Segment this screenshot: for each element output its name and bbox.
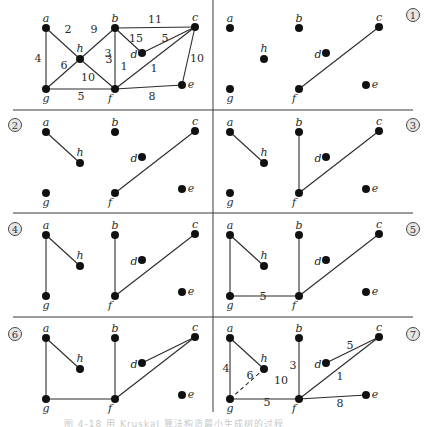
vertex-label-g: g [42, 92, 49, 105]
vertex-label-f: f [107, 196, 114, 209]
vertex-label-d: d [130, 48, 137, 61]
vertex-f [295, 395, 303, 403]
vertex-label-d: d [314, 152, 321, 165]
vertex-h [260, 365, 268, 373]
vertex-label-h: h [260, 249, 267, 262]
vertex-a [42, 334, 50, 342]
vertex-f [295, 189, 303, 197]
vertex-e [362, 391, 370, 399]
vertex-label-f: f [107, 92, 114, 105]
vertex-d [322, 153, 330, 161]
vertex-label-b: b [111, 12, 118, 25]
panel-step-7: 461035158abchdgfe [223, 321, 384, 415]
step-number: 4 [12, 224, 18, 235]
vertex-f [111, 189, 119, 197]
vertex-label-c: c [376, 218, 382, 231]
vertex-f [295, 292, 303, 300]
edge-fc [299, 234, 379, 296]
vertex-d [138, 359, 146, 367]
vertex-c [375, 127, 383, 135]
vertex-label-a: a [43, 322, 50, 335]
vertex-label-d: d [314, 48, 321, 61]
vertex-label-a: a [43, 12, 50, 25]
vertex-c [191, 23, 199, 31]
edge-ah [46, 132, 80, 163]
vertex-f [111, 85, 119, 93]
edge-ah [46, 28, 80, 59]
vertex-e [178, 81, 186, 89]
edge-weight: 1 [337, 370, 344, 383]
vertex-label-a: a [227, 12, 234, 25]
vertex-d [138, 256, 146, 264]
vertex-label-f: f [291, 92, 298, 105]
vertex-label-g: g [42, 402, 49, 415]
edge-weight: 8 [149, 90, 156, 103]
vertex-b [111, 128, 119, 136]
vertex-label-c: c [192, 321, 198, 334]
vertex-label-d: d [130, 255, 137, 268]
vertex-label-g: g [226, 402, 233, 415]
vertex-label-d: d [130, 358, 137, 371]
vertex-label-e: e [188, 388, 195, 401]
edge-dc [142, 337, 195, 363]
vertex-label-g: g [226, 299, 233, 312]
edge-weight: 3 [290, 359, 297, 372]
vertex-c [191, 127, 199, 135]
edge-weight: 10 [81, 71, 95, 84]
vertex-a [42, 231, 50, 239]
edge-ah [230, 338, 264, 369]
vertex-label-a: a [43, 219, 50, 232]
vertex-f [111, 292, 119, 300]
edge-weight: 10 [274, 374, 288, 387]
edge-weight: 8 [337, 397, 344, 410]
vertex-c [191, 230, 199, 238]
vertex-label-h: h [76, 249, 83, 262]
vertex-f [111, 395, 119, 403]
vertex-h [260, 159, 268, 167]
vertex-h [260, 262, 268, 270]
vertex-label-a: a [227, 219, 234, 232]
vertex-label-h: h [260, 352, 267, 365]
edge-weight: 5 [78, 90, 85, 103]
vertex-label-f: f [107, 299, 114, 312]
vertex-a [42, 128, 50, 136]
vertex-label-g: g [42, 196, 49, 209]
vertex-label-d: d [314, 358, 321, 371]
vertex-e [362, 185, 370, 193]
vertex-label-f: f [291, 196, 298, 209]
vertex-label-d: d [130, 152, 137, 165]
vertex-h [76, 365, 84, 373]
edge-weight: 5 [162, 32, 169, 45]
panel-step-6: abchdgfe [42, 321, 199, 415]
edge-weight: 10 [190, 52, 204, 65]
edge-weight: 11 [148, 13, 162, 26]
panel-graph: 24961011153511058abchdgfe [35, 11, 205, 105]
vertex-e [178, 185, 186, 193]
panel-step-3: abchdgfe [226, 115, 383, 209]
kruskal-figure: 24961011153511058abchdgfe1abchdgfe3abchd… [0, 0, 429, 427]
step-number: 1 [410, 10, 416, 21]
edge-ah [230, 132, 264, 163]
edge-ah [230, 235, 264, 266]
vertex-label-a: a [227, 116, 234, 129]
edge-weight: 9 [91, 23, 98, 36]
edge-fe [115, 85, 182, 89]
vertex-label-b: b [295, 12, 302, 25]
edge-weight: 3 [105, 47, 112, 60]
vertex-label-c: c [192, 218, 198, 231]
vertex-label-b: b [295, 322, 302, 335]
vertex-a [226, 24, 234, 32]
vertex-label-g: g [226, 92, 233, 105]
edge-fc [299, 131, 379, 193]
vertex-e [178, 391, 186, 399]
vertex-d [322, 256, 330, 264]
vertex-c [191, 333, 199, 341]
vertex-label-b: b [111, 219, 118, 232]
step-badges: 1234567 [9, 9, 420, 341]
vertex-b [111, 231, 119, 239]
edge-weight: 2 [65, 23, 72, 36]
vertex-e [362, 81, 370, 89]
vertex-label-e: e [372, 285, 379, 298]
edge-weight: 15 [129, 32, 143, 45]
edge-weight: 6 [61, 59, 68, 72]
